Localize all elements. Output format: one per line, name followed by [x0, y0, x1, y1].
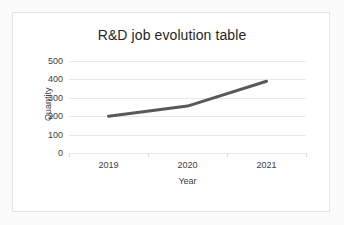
- y-axis-tick-label: 500: [48, 56, 63, 66]
- plot-area: 0100200300400500 201920202021: [69, 61, 306, 153]
- data-series-line: [69, 61, 306, 153]
- chart-title: R&D job evolution table: [13, 27, 331, 43]
- x-axis-tick-label: 2020: [177, 160, 197, 170]
- y-axis-tick-label: 300: [48, 93, 63, 103]
- y-axis-tick-label: 400: [48, 74, 63, 84]
- y-axis-tick-label: 0: [58, 148, 63, 158]
- x-axis-separator: [148, 153, 149, 157]
- x-axis-separator: [227, 153, 228, 157]
- chart-container: R&D job evolution table Quantity 0100200…: [12, 12, 330, 212]
- x-axis-separator: [69, 153, 70, 157]
- x-axis-title: Year: [69, 176, 306, 186]
- y-axis-tick-label: 100: [48, 130, 63, 140]
- x-axis-separator: [306, 153, 307, 157]
- x-axis-tick-label: 2019: [98, 160, 118, 170]
- y-axis-tick-label: 200: [48, 111, 63, 121]
- gridline: [69, 153, 306, 154]
- x-axis-tick-label: 2021: [256, 160, 276, 170]
